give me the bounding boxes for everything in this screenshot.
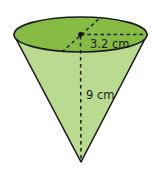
height-label: 9 cm xyxy=(86,88,115,102)
cone-diagram: 3.2 cm 9 cm xyxy=(0,0,156,171)
center-point xyxy=(78,32,83,37)
radius-label: 3.2 cm xyxy=(90,37,129,51)
